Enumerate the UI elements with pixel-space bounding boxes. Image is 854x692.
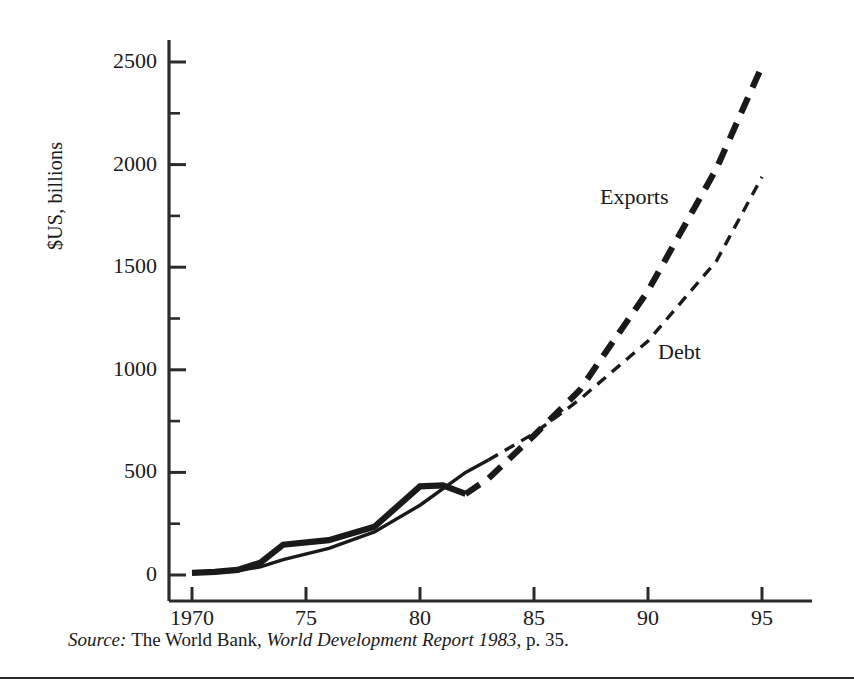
series-label-exports: Exports [600, 186, 668, 208]
y-axis-title: $US, billions [44, 50, 72, 250]
y-tick-label-2500: 2500 [67, 50, 157, 72]
y-tick-label-2000: 2000 [67, 153, 157, 175]
y-tick-label-1000: 1000 [67, 358, 157, 380]
source-prefix: Source: [68, 629, 126, 650]
x-tick-label-75: 75 [256, 607, 356, 629]
bottom-divider-rule [0, 677, 854, 679]
series-line-exports-dashed [466, 66, 762, 494]
y-axis-minor-ticks [169, 113, 180, 523]
x-axis-major-ticks [192, 587, 762, 601]
series-line-debt-solid [192, 460, 488, 573]
y-tick-label-1500: 1500 [67, 255, 157, 277]
x-tick-label-95: 95 [712, 607, 812, 629]
source-body-2: , p. 35. [516, 629, 568, 650]
x-tick-label-90: 90 [598, 607, 698, 629]
y-tick-label-0: 0 [67, 563, 157, 585]
y-tick-label-500: 500 [67, 460, 157, 482]
data-series-layer [192, 66, 762, 573]
source-caption: Source: The World Bank, World Developmen… [68, 628, 569, 652]
figure-container: $US, billions 05001000150020002500 19707… [0, 0, 854, 692]
series-label-debt: Debt [658, 341, 701, 363]
chart-plot-area [0, 0, 854, 692]
series-line-exports-solid [192, 485, 466, 573]
series-line-debt-dashed [488, 177, 762, 460]
x-tick-label-85: 85 [484, 607, 584, 629]
source-report-title: World Development Report 1983 [266, 629, 516, 650]
axis-lines [169, 40, 812, 601]
source-body-1: The World Bank, [131, 629, 262, 650]
x-tick-label-1970: 1970 [142, 607, 242, 629]
x-tick-label-80: 80 [370, 607, 470, 629]
